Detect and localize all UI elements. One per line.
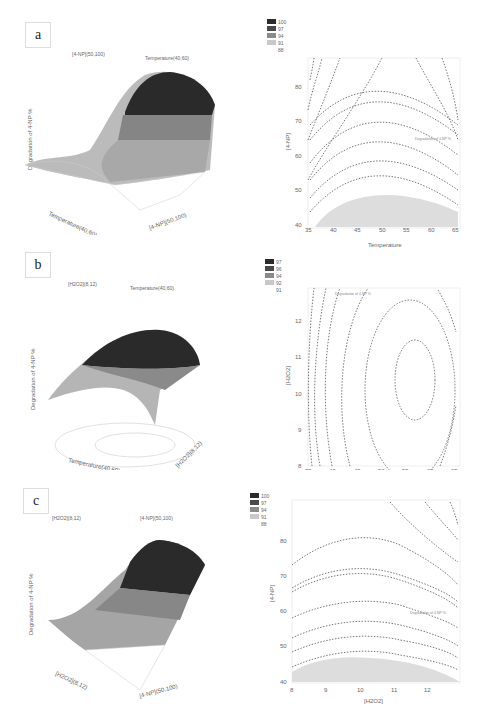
x-axis-label-prev: Temperature [368, 242, 402, 248]
x-tick: 55 [403, 227, 410, 233]
y-tick: 70 [280, 573, 287, 579]
bottom-axis-label-2: [4-NP](50,100) [139, 683, 179, 699]
y-tick: 60 [295, 153, 302, 159]
z-axis-label-left: Degradation of 4-NP % [27, 108, 33, 170]
contour-plot: Degradation of 4-NP % 35 40 45 50 55 60 … [240, 240, 480, 470]
y-tick: 9 [298, 427, 302, 433]
x-tick: 60 [428, 227, 435, 233]
x-tick: 35 [305, 227, 312, 233]
x-tick: 65 [452, 227, 459, 233]
x-tick: 45 [354, 227, 361, 233]
y-axis-label: [4-NP] [285, 133, 291, 150]
contour-plot: Degradation of 4-NP % 35 40 45 50 55 60 … [240, 0, 480, 235]
panel-b: b [H2O2](8,12) Temperature(40,60) Degrad… [0, 240, 480, 470]
y-tick: 40 [295, 222, 302, 228]
bottom-axis-label-1: Temperature(40,60) [68, 457, 121, 470]
z-axis-label-left: Degradation of 4-NP % [30, 348, 36, 410]
y-tick: 11 [295, 354, 302, 360]
y-axis-label: [H2O2] [285, 366, 291, 385]
y-tick: 12 [295, 318, 302, 324]
contour-annotation: Degradation of 4-NP % [335, 292, 371, 296]
x-tick: 12 [424, 687, 431, 693]
y-tick: 50 [295, 187, 302, 193]
x-tick: 11 [391, 687, 398, 693]
panel-c: c [H2O2](8,12) [4-NP](50,100) Degradatio… [0, 470, 480, 708]
top-axis-label-2: Temperature(40,60) [145, 55, 189, 61]
x-tick: 8 [290, 687, 294, 693]
top-axis-label-2: Temperature(40,60) [130, 285, 174, 291]
bottom-axis-label-1: Temperature(40,60) [48, 210, 98, 235]
top-axis-label-1: [4-NP](50,100) [72, 51, 105, 57]
top-axis-label-1: [H2O2](8,12) [52, 515, 81, 521]
x-axis-label: [H2O2] [364, 698, 383, 704]
bottom-axis-label-2: [H2O2](8,12) [174, 440, 203, 469]
surface-3d-plot: [4-NP](50,100) Temperature(40,60) Degrad… [0, 0, 240, 235]
y-axis-label: [4-NP] [269, 585, 275, 602]
contour-annotation: Degradation of 4-NP % [410, 611, 446, 615]
y-tick: 80 [295, 84, 302, 90]
x-tick: 40 [330, 227, 337, 233]
y-tick: 40 [280, 679, 287, 685]
y-tick: 70 [295, 118, 302, 124]
y-tick: 10 [295, 391, 302, 397]
y-tick: 8 [298, 463, 302, 469]
bottom-axis-label-2: [4-NP](50,100) [148, 212, 187, 231]
y-tick: 80 [280, 538, 287, 544]
x-tick: 9 [324, 687, 328, 693]
contour-plot: Degradation of 4-NP % 8 9 10 11 12 40 50… [240, 470, 480, 708]
x-tick: 10 [357, 687, 364, 693]
contour-annotation: Degradation of 4-NP % [415, 137, 451, 141]
surface-3d-plot: [H2O2](8,12) Temperature(40,60) Degradat… [0, 240, 240, 470]
panel-a: a [4-NP](50,100) Temperature(40,60) Degr… [0, 0, 480, 235]
x-tick: 50 [379, 227, 386, 233]
top-axis-label-2: [4-NP](50,100) [140, 515, 173, 521]
top-axis-label-1: [H2O2](8,12) [68, 281, 97, 287]
y-tick: 60 [280, 608, 287, 614]
y-tick: 50 [280, 643, 287, 649]
bottom-axis-label-1: [H2O2](8,12) [55, 670, 89, 690]
surface-3d-plot: [H2O2](8,12) [4-NP](50,100) Degradation … [0, 470, 240, 708]
z-axis-label-left: Degradation of 4-NP % [28, 573, 34, 635]
